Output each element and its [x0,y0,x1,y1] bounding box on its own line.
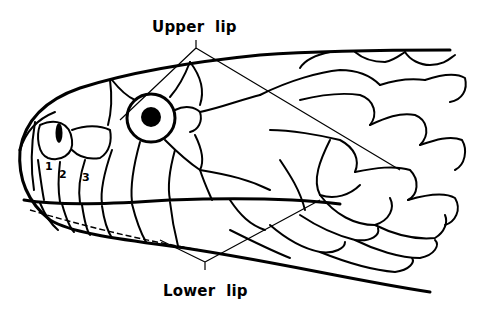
eye-pupil [141,107,161,127]
scale-number-3: 3 [82,171,90,184]
upper-lip-leader [120,40,400,170]
snake-head-drawing [0,0,478,315]
scale-number-2: 2 [59,168,67,181]
lower-lip-label: Lower lip [163,282,248,300]
snake-head-diagram: Upper lip Lower lip 1 2 3 [0,0,478,315]
nostril [56,123,63,143]
scale-number-1: 1 [45,160,53,173]
head-top-outline [20,50,450,150]
upper-lip-label: Upper lip [152,18,237,36]
